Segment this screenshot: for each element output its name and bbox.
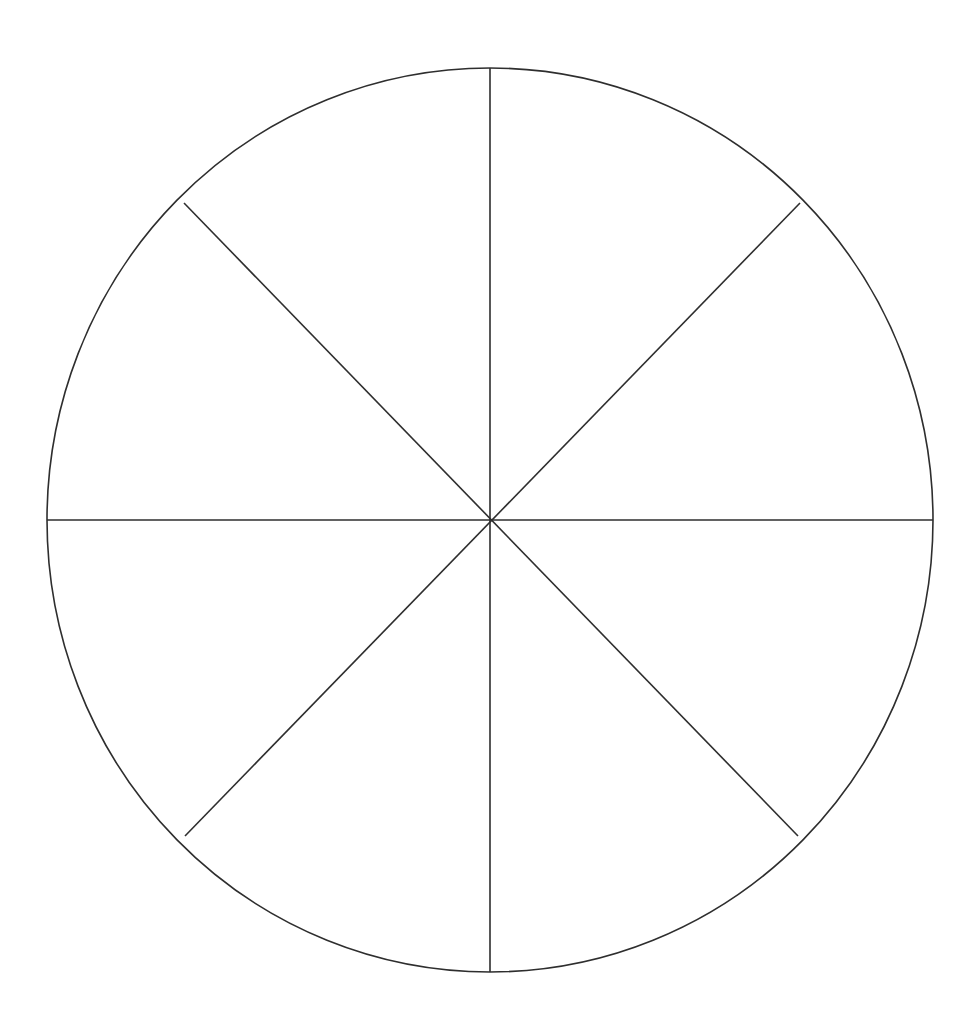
pie-chart-canvas: [0, 0, 980, 1017]
pie-chart-figure: [0, 0, 980, 1017]
